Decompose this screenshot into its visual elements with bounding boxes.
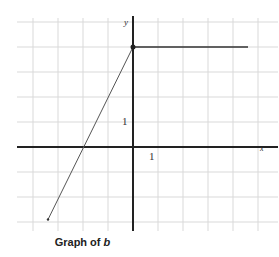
graph-caption: Graph of b [0,236,165,248]
sloped-segment [48,47,133,220]
segment-endpoint [47,218,49,220]
x-axis-label: x [259,144,264,153]
caption-var: b [104,236,111,248]
graph: xy11 [0,0,279,257]
x-tick-label: 1 [149,150,155,162]
closed-dot [131,45,136,50]
caption-text: Graph of [55,236,101,248]
y-axis-label: y [123,17,128,27]
y-tick-label: 1 [122,115,128,127]
